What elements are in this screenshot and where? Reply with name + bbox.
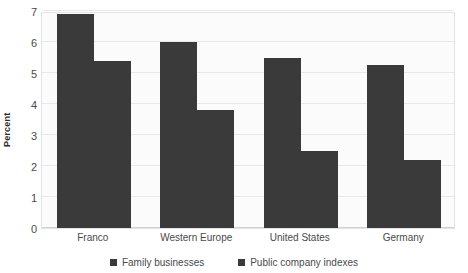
y-axis-tick-label: 6: [31, 38, 37, 49]
bar[interactable]: [197, 110, 234, 228]
y-axis-tick-label: 0: [31, 224, 37, 235]
y-axis-tick-labels: 01234567: [16, 12, 40, 229]
legend-swatch-icon: [110, 259, 117, 266]
y-axis-title: Percent: [0, 95, 14, 165]
legend-item[interactable]: Family businesses: [110, 257, 204, 268]
y-axis-tick-label: 1: [31, 193, 37, 204]
legend-label: Family businesses: [122, 257, 204, 268]
bar[interactable]: [264, 58, 301, 229]
bar[interactable]: [94, 61, 131, 228]
x-axis-tick-label: United States: [270, 232, 330, 243]
bar[interactable]: [404, 160, 441, 228]
legend-swatch-icon: [238, 259, 245, 266]
y-axis-tick-label: 4: [31, 100, 37, 111]
y-axis-tick-label: 3: [31, 131, 37, 142]
gridline: [42, 10, 454, 11]
chart-legend: Family businessesPublic company indexes: [0, 254, 468, 270]
plot-area: [41, 12, 455, 229]
bar-group: [264, 13, 338, 228]
x-axis-tick-label: Germany: [383, 232, 424, 243]
bar-group: [160, 13, 234, 228]
y-axis-tick-label: 2: [31, 162, 37, 173]
legend-item[interactable]: Public company indexes: [238, 257, 358, 268]
y-axis-tick-label: 5: [31, 69, 37, 80]
bar[interactable]: [160, 42, 197, 228]
x-axis-tick-label: Western Europe: [160, 232, 232, 243]
bar[interactable]: [301, 151, 338, 229]
y-axis-tick-label: 7: [31, 7, 37, 18]
x-axis-tick-label: Franco: [77, 232, 108, 243]
bar[interactable]: [57, 14, 94, 228]
bar-chart: Percent 01234567 FrancoWestern EuropeUni…: [0, 0, 468, 273]
x-axis-tick-labels: FrancoWestern EuropeUnited StatesGermany: [41, 232, 455, 248]
bars-layer: [42, 13, 454, 228]
legend-label: Public company indexes: [250, 257, 358, 268]
bar-group: [367, 13, 441, 228]
bar[interactable]: [367, 65, 404, 228]
bar-group: [57, 13, 131, 228]
